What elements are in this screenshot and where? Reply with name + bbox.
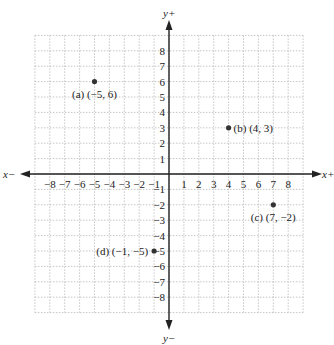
arrow-up-icon (166, 20, 173, 30)
point-c (271, 202, 276, 207)
y-tick-label: 7 (160, 60, 166, 72)
x-tick-label: 4 (226, 178, 232, 190)
point-b (226, 125, 231, 130)
point-d (152, 248, 157, 253)
point-label-c: (c) (7, −2) (251, 211, 296, 224)
point-a (92, 79, 97, 84)
y-pos-label: y+ (162, 7, 175, 19)
y-tick-label: −3 (153, 214, 165, 226)
point-label-a: (a) (−5, 6) (72, 88, 117, 101)
arrow-right-icon (312, 171, 322, 178)
y-tick-label: 3 (160, 122, 166, 134)
x-tick-label: 8 (285, 178, 291, 190)
x-tick-label: 2 (196, 178, 202, 190)
x-tick-label: 3 (211, 178, 217, 190)
y-tick-label: −6 (153, 260, 165, 272)
point-label-b: (b) (4, 3) (234, 122, 274, 135)
coordinate-plane: x−x+y+y− −8−7−6−5−4−3−2−1123456788765432… (0, 0, 334, 345)
y-tick-label: −1 (153, 183, 165, 195)
x-tick-label: −2 (133, 178, 145, 190)
y-tick-label: 2 (160, 137, 166, 149)
y-tick-label: −4 (153, 230, 165, 242)
x-tick-label: 6 (256, 178, 262, 190)
y-tick-label: 8 (160, 45, 166, 57)
y-tick-label: 4 (160, 106, 166, 118)
x-tick-label: 7 (271, 178, 277, 190)
axes: x−x+y+y− (2, 7, 334, 344)
x-tick-label: −7 (59, 178, 71, 190)
x-tick-label: −4 (104, 178, 116, 190)
y-tick-label: −8 (153, 291, 165, 303)
x-tick-label: −5 (89, 178, 101, 190)
arrow-left-icon (20, 171, 30, 178)
point-label-d: (d) (−1, −5) (96, 245, 148, 258)
y-neg-label: y− (162, 332, 175, 344)
y-tick-label: −2 (153, 199, 165, 211)
arrow-down-icon (166, 320, 173, 330)
y-tick-label: 6 (160, 76, 166, 88)
x-tick-label: 5 (241, 178, 247, 190)
x-neg-label: x− (2, 168, 15, 180)
y-tick-label: −7 (153, 276, 165, 288)
x-tick-label: −8 (44, 178, 56, 190)
x-pos-label: x+ (321, 168, 334, 180)
y-tick-label: 1 (160, 153, 166, 165)
x-tick-label: 1 (181, 178, 187, 190)
x-tick-label: −6 (74, 178, 86, 190)
x-tick-label: −3 (118, 178, 130, 190)
y-tick-label: 5 (160, 91, 166, 103)
